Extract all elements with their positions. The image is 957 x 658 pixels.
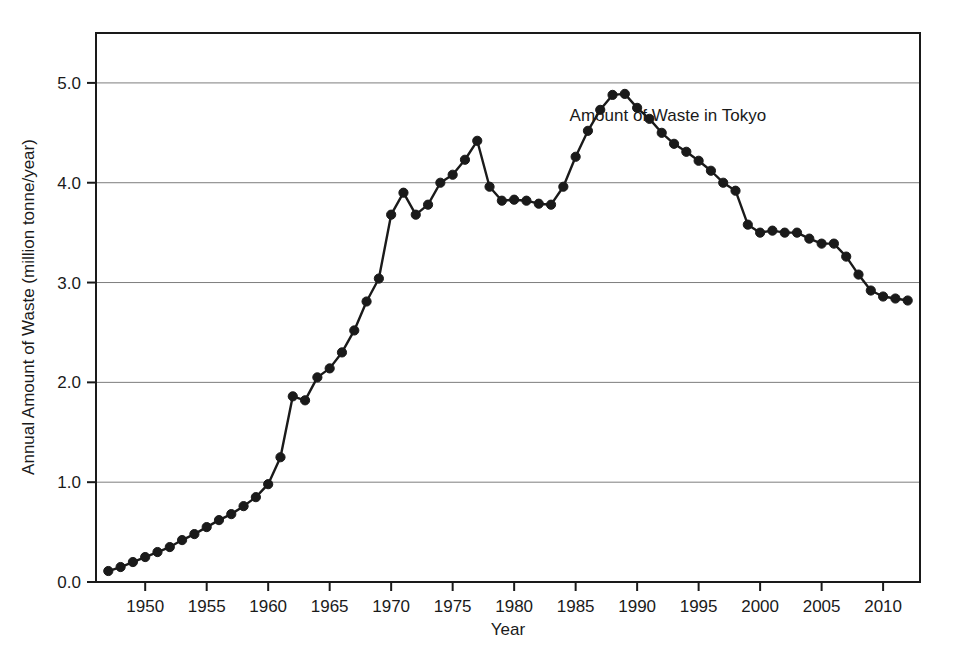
data-point bbox=[288, 392, 297, 401]
data-point bbox=[337, 348, 346, 357]
data-point bbox=[177, 535, 186, 544]
data-point bbox=[534, 199, 543, 208]
data-point bbox=[817, 239, 826, 248]
data-point bbox=[362, 297, 371, 306]
y-tick-label: 5.0 bbox=[57, 74, 81, 93]
y-tick-label: 2.0 bbox=[57, 373, 81, 392]
y-axis-ticks bbox=[87, 83, 96, 582]
data-point bbox=[497, 196, 506, 205]
data-point bbox=[104, 566, 113, 575]
data-point bbox=[829, 239, 838, 248]
data-point bbox=[411, 210, 420, 219]
data-point bbox=[141, 552, 150, 561]
data-point bbox=[669, 139, 678, 148]
data-point bbox=[891, 294, 900, 303]
data-point bbox=[657, 128, 666, 137]
data-point bbox=[202, 523, 211, 532]
data-point bbox=[460, 155, 469, 164]
data-point bbox=[448, 170, 457, 179]
data-point bbox=[682, 147, 691, 156]
x-tick-label: 1990 bbox=[618, 597, 656, 616]
data-point bbox=[264, 480, 273, 489]
data-point bbox=[842, 252, 851, 261]
data-point bbox=[583, 126, 592, 135]
data-point bbox=[706, 166, 715, 175]
gridlines bbox=[96, 83, 920, 482]
data-point bbox=[546, 200, 555, 209]
data-point bbox=[325, 364, 334, 373]
data-point bbox=[620, 89, 629, 98]
data-point bbox=[608, 90, 617, 99]
x-tick-label: 1960 bbox=[249, 597, 287, 616]
x-tick-label: 1955 bbox=[188, 597, 226, 616]
data-point bbox=[423, 200, 432, 209]
data-point bbox=[743, 220, 752, 229]
x-tick-label: 1965 bbox=[311, 597, 349, 616]
data-point bbox=[485, 182, 494, 191]
data-point bbox=[190, 529, 199, 538]
x-axis-ticks bbox=[145, 582, 883, 591]
data-point bbox=[374, 274, 383, 283]
chart-container: 0.01.02.03.04.05.0 195019551960196519701… bbox=[0, 0, 957, 658]
data-point bbox=[792, 228, 801, 237]
data-point bbox=[116, 562, 125, 571]
y-axis-title: Annual Amount of Waste (million tonne/ye… bbox=[19, 139, 38, 475]
data-point bbox=[350, 326, 359, 335]
y-tick-label: 4.0 bbox=[57, 174, 81, 193]
line-chart: 0.01.02.03.04.05.0 195019551960196519701… bbox=[0, 0, 957, 658]
data-point bbox=[276, 453, 285, 462]
data-point bbox=[879, 292, 888, 301]
y-tick-label: 0.0 bbox=[57, 573, 81, 592]
data-point bbox=[854, 270, 863, 279]
data-point bbox=[522, 196, 531, 205]
data-point bbox=[153, 547, 162, 556]
data-point bbox=[473, 136, 482, 145]
data-point bbox=[251, 493, 260, 502]
data-point bbox=[719, 178, 728, 187]
x-tick-label: 1995 bbox=[680, 597, 718, 616]
data-point bbox=[436, 178, 445, 187]
data-point bbox=[731, 186, 740, 195]
data-point bbox=[313, 373, 322, 382]
plot-frame bbox=[96, 33, 920, 582]
y-tick-label: 3.0 bbox=[57, 274, 81, 293]
y-tick-label: 1.0 bbox=[57, 473, 81, 492]
y-axis-tick-labels: 0.01.02.03.04.05.0 bbox=[57, 74, 81, 592]
data-point bbox=[227, 510, 236, 519]
data-point bbox=[694, 156, 703, 165]
data-point bbox=[866, 286, 875, 295]
data-point bbox=[214, 516, 223, 525]
data-point bbox=[239, 502, 248, 511]
data-point bbox=[768, 226, 777, 235]
x-tick-label: 1985 bbox=[557, 597, 595, 616]
x-tick-label: 2005 bbox=[803, 597, 841, 616]
data-point bbox=[780, 228, 789, 237]
data-point bbox=[399, 188, 408, 197]
data-point bbox=[387, 210, 396, 219]
x-axis-tick-labels: 1950195519601965197019751980198519901995… bbox=[126, 597, 902, 616]
data-point bbox=[805, 234, 814, 243]
x-tick-label: 2000 bbox=[741, 597, 779, 616]
data-series-line bbox=[108, 94, 907, 571]
data-point bbox=[571, 152, 580, 161]
data-point bbox=[300, 396, 309, 405]
series-annotation-group: Amount of Waste in Tokyo bbox=[570, 106, 767, 125]
series-annotation: Amount of Waste in Tokyo bbox=[570, 106, 767, 125]
x-tick-label: 1975 bbox=[434, 597, 472, 616]
data-point bbox=[903, 296, 912, 305]
data-point bbox=[559, 182, 568, 191]
data-point bbox=[128, 557, 137, 566]
x-tick-label: 1970 bbox=[372, 597, 410, 616]
x-tick-label: 1980 bbox=[495, 597, 533, 616]
x-axis-title: Year bbox=[491, 620, 526, 639]
data-point bbox=[510, 195, 519, 204]
x-tick-label: 1950 bbox=[126, 597, 164, 616]
x-tick-label: 2010 bbox=[864, 597, 902, 616]
data-point bbox=[756, 228, 765, 237]
data-point bbox=[165, 542, 174, 551]
data-series-markers bbox=[104, 89, 913, 575]
series-line bbox=[108, 94, 907, 571]
